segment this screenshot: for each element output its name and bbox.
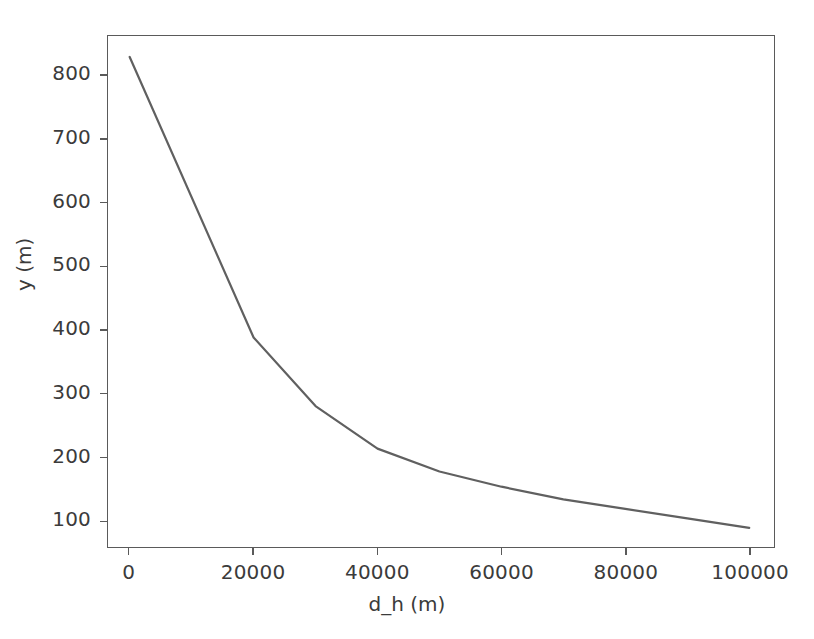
y-tick-mark bbox=[100, 329, 107, 330]
x-axis-label: d_h (m) bbox=[0, 592, 814, 616]
y-tick-mark bbox=[100, 74, 107, 75]
y-tick-mark bbox=[100, 393, 107, 394]
y-tick-label: 800 bbox=[0, 61, 91, 85]
line-series-svg bbox=[108, 36, 774, 547]
y-tick-mark bbox=[100, 138, 107, 139]
y-tick-mark bbox=[100, 521, 107, 522]
x-tick-label: 100000 bbox=[660, 560, 814, 584]
y-tick-label: 400 bbox=[0, 316, 91, 340]
y-tick-mark bbox=[100, 202, 107, 203]
plot-area bbox=[107, 35, 775, 548]
x-tick-mark bbox=[625, 548, 626, 555]
y-tick-label: 200 bbox=[0, 444, 91, 468]
x-tick-mark bbox=[749, 548, 750, 555]
series-line-y bbox=[130, 57, 750, 528]
x-tick-mark bbox=[128, 548, 129, 555]
y-tick-label: 300 bbox=[0, 380, 91, 404]
x-tick-mark bbox=[501, 548, 502, 555]
y-tick-label: 700 bbox=[0, 125, 91, 149]
chart-figure: y (m) 100200300400500600700800 020000400… bbox=[0, 0, 814, 639]
y-tick-mark bbox=[100, 457, 107, 458]
y-tick-label: 500 bbox=[0, 252, 91, 276]
x-tick-mark bbox=[377, 548, 378, 555]
x-tick-mark bbox=[252, 548, 253, 555]
y-tick-label: 100 bbox=[0, 507, 91, 531]
y-tick-label: 600 bbox=[0, 189, 91, 213]
y-tick-mark bbox=[100, 266, 107, 267]
